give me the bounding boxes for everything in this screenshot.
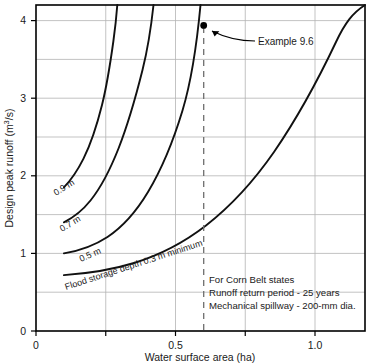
chart-figure: 0 1 2 3 4 0 0.5 1.0 Water surface area (… (0, 0, 372, 363)
y-tick-label-3: 3 (20, 92, 26, 104)
y-tick-label-0: 0 (20, 325, 26, 337)
x-tick-label-2: 1.0 (308, 339, 323, 351)
note-line-1: For Corn Belt states (209, 274, 295, 285)
example-point-marker (200, 22, 207, 29)
note-line-2: Runoff return period - 25 years (209, 287, 340, 298)
chart-svg: 0 1 2 3 4 0 0.5 1.0 Water surface area (… (0, 0, 372, 363)
y-axis-title: Design peak runoff (m3/s) (2, 109, 16, 228)
x-tick-label-1: 0.5 (168, 339, 183, 351)
y-tick-label-1: 1 (20, 247, 26, 259)
x-tick-label-0: 0 (33, 339, 39, 351)
y-tick-label-2: 2 (20, 169, 26, 181)
y-tick-label-4: 4 (20, 14, 26, 26)
example-callout-label: Example 9.6 (258, 36, 314, 47)
note-line-3: Mechanical spillway - 200-mm dia. (209, 300, 356, 311)
x-axis-title: Water surface area (ha) (145, 351, 256, 363)
